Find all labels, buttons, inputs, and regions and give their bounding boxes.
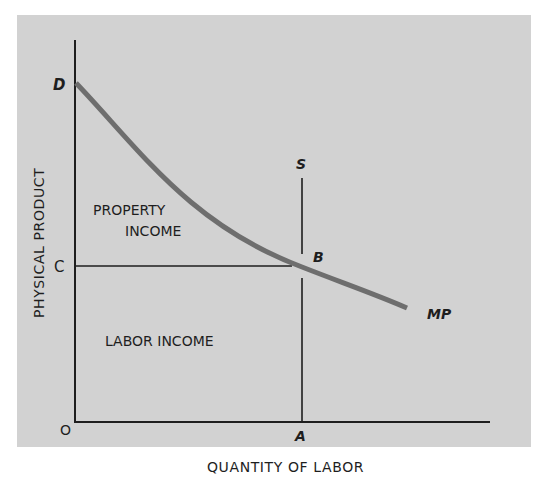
y-axis-label: PHYSICAL PRODUCT [31, 168, 47, 318]
diagram: D C B S A O MP PROPERTY INCOME LABOR INC… [0, 0, 541, 496]
x-axis-label: QUANTITY OF LABOR [207, 459, 364, 475]
point-a-label: A [294, 428, 306, 444]
property-income-label-line1: PROPERTY [93, 202, 166, 218]
mp-curve-label: MP [427, 306, 452, 322]
origin-label: O [60, 422, 71, 438]
point-s-label: S [296, 156, 306, 172]
labor-income-label: LABOR INCOME [105, 333, 214, 349]
property-income-label-line2: INCOME [125, 223, 181, 239]
point-c-label: C [54, 258, 64, 276]
point-d-label: D [53, 76, 65, 94]
point-b-label: B [313, 249, 324, 265]
mp-curve [76, 83, 407, 308]
